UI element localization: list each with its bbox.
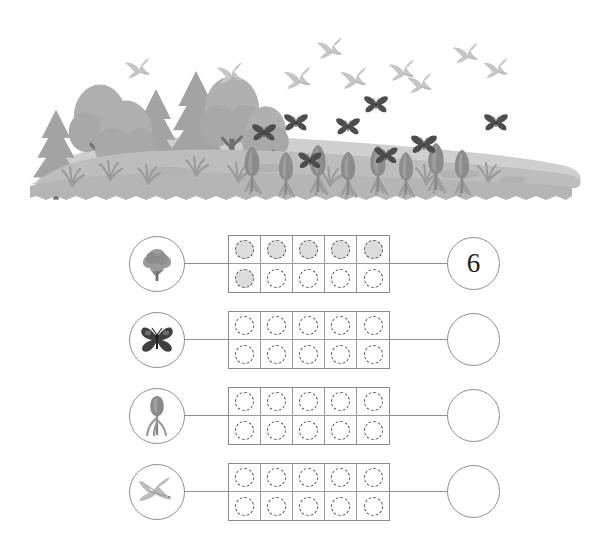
counter-dot[interactable] [364, 392, 383, 411]
counter-dot[interactable] [299, 468, 318, 487]
ten-frame-cell[interactable] [293, 340, 325, 368]
ten-frame-cell[interactable] [261, 312, 293, 340]
ten-frame-cell[interactable] [293, 416, 325, 444]
ten-frame-cell[interactable] [325, 312, 357, 340]
counter-dot[interactable] [235, 345, 254, 364]
ten-frame-cell[interactable] [357, 236, 389, 264]
ten-frame-tree[interactable] [228, 235, 390, 293]
ten-frame-butterfly[interactable] [228, 311, 390, 369]
ten-frame-cell[interactable] [357, 492, 389, 520]
ten-frame-cell[interactable] [229, 416, 261, 444]
counter-dot[interactable] [364, 345, 383, 364]
counter-dot[interactable] [235, 392, 254, 411]
ten-frame-bird[interactable] [228, 463, 390, 521]
ten-frame-cell[interactable] [357, 464, 389, 492]
counter-dot[interactable] [364, 316, 383, 335]
answer-circle[interactable] [447, 465, 500, 518]
counter-dot[interactable] [267, 468, 286, 487]
counter-dot[interactable] [299, 316, 318, 335]
counter-dot[interactable] [331, 269, 350, 288]
counter-dot[interactable] [364, 497, 383, 516]
connector-line-right [390, 263, 448, 264]
counter-dot[interactable] [331, 392, 350, 411]
ten-frame-cell[interactable] [293, 236, 325, 264]
ten-frame-cell[interactable] [229, 312, 261, 340]
counter-dot[interactable] [235, 269, 254, 288]
counter-dot[interactable] [235, 240, 254, 259]
counter-dot[interactable] [364, 240, 383, 259]
ten-frame-cell[interactable] [293, 312, 325, 340]
ten-frame-cell[interactable] [229, 464, 261, 492]
counter-dot[interactable] [299, 269, 318, 288]
ten-frame-cell[interactable] [357, 416, 389, 444]
flower-icon [129, 388, 185, 444]
spring-meadow-illustration [0, 0, 602, 215]
ten-frame-cell[interactable] [325, 416, 357, 444]
counter-dot[interactable] [267, 497, 286, 516]
ten-frame-cell[interactable] [325, 264, 357, 292]
counter-dot[interactable] [267, 269, 286, 288]
ten-frame-cell[interactable] [261, 492, 293, 520]
ten-frame-cell[interactable] [261, 340, 293, 368]
ten-frame-cell[interactable] [325, 464, 357, 492]
ten-frame-cell[interactable] [293, 264, 325, 292]
ten-frame-cell[interactable] [261, 464, 293, 492]
counter-dot[interactable] [299, 421, 318, 440]
ten-frame-flower[interactable] [228, 387, 390, 445]
counter-dot[interactable] [235, 421, 254, 440]
counter-dot[interactable] [331, 468, 350, 487]
ten-frame-cell[interactable] [261, 236, 293, 264]
counter-dot[interactable] [364, 269, 383, 288]
ten-frame-cell[interactable] [357, 264, 389, 292]
answer-circle[interactable] [447, 313, 500, 366]
connector-line-left [184, 339, 230, 340]
counter-dot[interactable] [235, 316, 254, 335]
ten-frame-cell[interactable] [357, 340, 389, 368]
counter-dot[interactable] [267, 392, 286, 411]
answer-circle[interactable]: 6 [447, 237, 500, 290]
ten-frame-cell[interactable] [229, 340, 261, 368]
counter-dot[interactable] [267, 345, 286, 364]
ten-frame-cell[interactable] [293, 464, 325, 492]
connector-line-right [390, 415, 448, 416]
table-row [0, 461, 602, 537]
counter-dot[interactable] [235, 468, 254, 487]
counter-dot[interactable] [235, 497, 254, 516]
ten-frame-cell[interactable] [293, 388, 325, 416]
counter-dot[interactable] [364, 468, 383, 487]
counter-dot[interactable] [267, 421, 286, 440]
counter-dot[interactable] [331, 421, 350, 440]
connector-line-right [390, 491, 448, 492]
ten-frame-cell[interactable] [261, 388, 293, 416]
ten-frame-cell[interactable] [261, 416, 293, 444]
counter-dot[interactable] [331, 345, 350, 364]
ten-frame-cell[interactable] [325, 340, 357, 368]
counter-dot[interactable] [267, 240, 286, 259]
worksheet-rows: 6 [0, 215, 602, 550]
counter-dot[interactable] [299, 240, 318, 259]
ten-frame-cell[interactable] [325, 388, 357, 416]
counter-dot[interactable] [331, 240, 350, 259]
counter-dot[interactable] [331, 497, 350, 516]
counter-dot[interactable] [299, 497, 318, 516]
answer-circle[interactable] [447, 389, 500, 442]
counter-dot[interactable] [331, 316, 350, 335]
ten-frame-cell[interactable] [229, 264, 261, 292]
ten-frame-cell[interactable] [261, 264, 293, 292]
ten-frame-cell[interactable] [325, 236, 357, 264]
worksheet-page: 6 [0, 0, 602, 550]
connector-line-left [184, 263, 230, 264]
ten-frame-cell[interactable] [229, 236, 261, 264]
counter-dot[interactable] [364, 421, 383, 440]
counter-dot[interactable] [267, 316, 286, 335]
ten-frame-cell[interactable] [357, 312, 389, 340]
bird-icon [129, 464, 185, 520]
counter-dot[interactable] [299, 392, 318, 411]
ten-frame-cell[interactable] [229, 492, 261, 520]
connector-line-left [184, 415, 230, 416]
ten-frame-cell[interactable] [293, 492, 325, 520]
ten-frame-cell[interactable] [325, 492, 357, 520]
ten-frame-cell[interactable] [357, 388, 389, 416]
counter-dot[interactable] [299, 345, 318, 364]
ten-frame-cell[interactable] [229, 388, 261, 416]
